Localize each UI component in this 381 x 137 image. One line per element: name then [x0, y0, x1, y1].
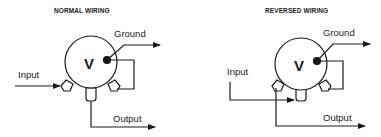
ground-label: Ground: [114, 28, 146, 39]
ground-label: Ground: [323, 27, 355, 38]
ground-dot: [314, 58, 321, 65]
center-lug: [86, 88, 96, 101]
ground-dot: [104, 57, 111, 64]
output-label: Output: [323, 112, 352, 123]
input-label: Input: [18, 69, 39, 80]
reversed-wiring-title: REVERSED WIRING: [265, 7, 328, 14]
normal-wiring-title: NORMAL WIRING: [54, 7, 110, 14]
left-lug: [61, 80, 73, 91]
output-label: Output: [113, 113, 142, 124]
center-label-v: V: [84, 55, 94, 72]
center-label-v: V: [294, 57, 304, 74]
input-label: Input: [227, 66, 248, 77]
